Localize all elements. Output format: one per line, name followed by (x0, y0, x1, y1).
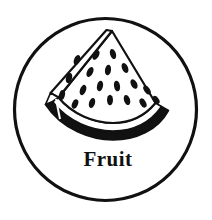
fruit-badge: Fruit (0, 0, 212, 220)
badge-illustration: Fruit (0, 0, 212, 220)
seed (107, 95, 113, 105)
badge-label: Fruit (83, 147, 132, 171)
